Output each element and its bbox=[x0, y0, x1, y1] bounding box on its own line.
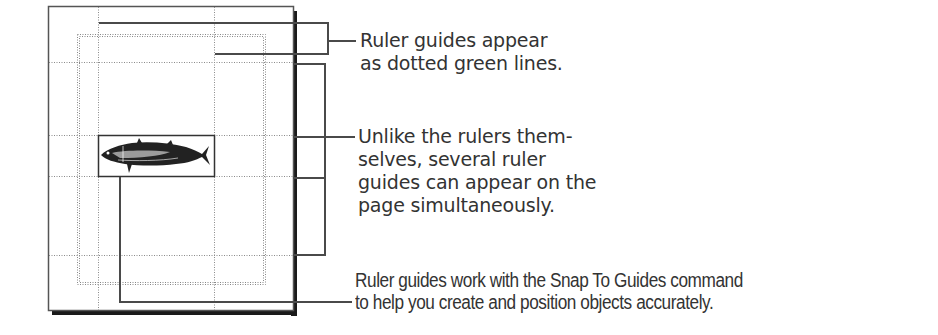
callout-line: Unlike the rulers them- bbox=[358, 125, 596, 148]
callout-line: to help you create and position objects … bbox=[355, 291, 743, 313]
callout-line: guides can appear on the bbox=[358, 171, 596, 194]
callout-line: as dotted green lines. bbox=[360, 52, 563, 75]
callout-line: Ruler guides work with the Snap To Guide… bbox=[355, 269, 743, 291]
callout-multiple-guides: Unlike the rulers them- selves, several … bbox=[358, 125, 596, 217]
fish-image[interactable] bbox=[99, 136, 215, 177]
callout-line: selves, several ruler bbox=[358, 148, 596, 171]
leader-2 bbox=[293, 64, 325, 255]
callout-ruler-guides-appearance: Ruler guides appear as dotted green line… bbox=[360, 29, 563, 75]
callout-snap-to-guides: Ruler guides work with the Snap To Guide… bbox=[355, 269, 743, 313]
callout-line: page simultaneously. bbox=[358, 194, 596, 217]
callout-line: Ruler guides appear bbox=[360, 29, 563, 52]
